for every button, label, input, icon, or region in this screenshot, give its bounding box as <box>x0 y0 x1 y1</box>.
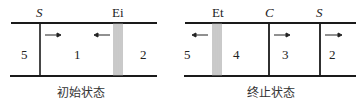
final-expansion-label: Et <box>212 6 224 19</box>
arrow-right-icon <box>325 33 342 37</box>
arrow-right-icon <box>274 33 290 37</box>
initial-expansion-fan <box>114 23 122 76</box>
arrow-left-icon <box>94 33 110 37</box>
region-label: 4 <box>233 48 240 61</box>
region-label: 2 <box>329 48 336 61</box>
region-label: 2 <box>140 48 147 61</box>
region-label: 5 <box>21 48 28 61</box>
initial-tube <box>10 23 157 76</box>
region-label: 1 <box>74 48 81 61</box>
region-label: 3 <box>282 48 289 61</box>
initial-caption: 初始状态 <box>57 83 105 100</box>
initial-shock-label: S <box>36 6 43 19</box>
initial-expansion-label: Ei <box>112 6 124 19</box>
final-expansion-fan <box>213 23 221 76</box>
contact-label: C <box>265 6 274 19</box>
region-label: 5 <box>184 48 191 61</box>
final-caption: 终止状态 <box>247 83 295 100</box>
arrow-left-icon <box>192 33 208 37</box>
arrow-right-icon <box>45 33 61 37</box>
final-shock-label: S <box>316 6 323 19</box>
shock-tube-diagram <box>0 0 364 102</box>
